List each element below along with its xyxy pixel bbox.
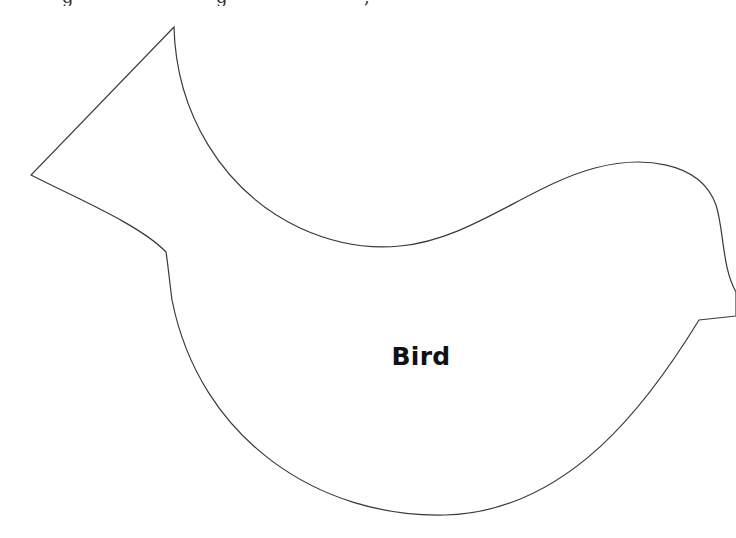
bird-outline-path (31, 27, 736, 515)
bird-template-outline (0, 0, 736, 538)
shape-label: Bird (380, 337, 462, 377)
